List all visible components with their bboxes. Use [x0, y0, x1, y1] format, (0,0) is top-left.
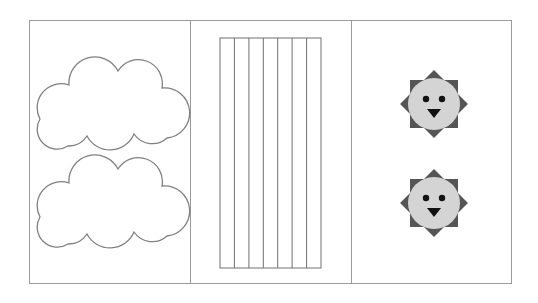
panel-suns	[352, 21, 512, 283]
clouds-drawing	[30, 21, 191, 285]
cloud-icon	[37, 57, 189, 150]
suns-drawing	[352, 21, 512, 285]
cloud-icon	[37, 155, 189, 248]
panel-clouds	[30, 21, 191, 283]
striped-rectangle	[220, 38, 321, 268]
sun-face-icon	[400, 70, 468, 138]
sun-face-icon	[400, 169, 468, 237]
panel-stripes	[191, 21, 352, 283]
stripes-drawing	[191, 21, 352, 285]
picture-frame	[29, 20, 512, 284]
